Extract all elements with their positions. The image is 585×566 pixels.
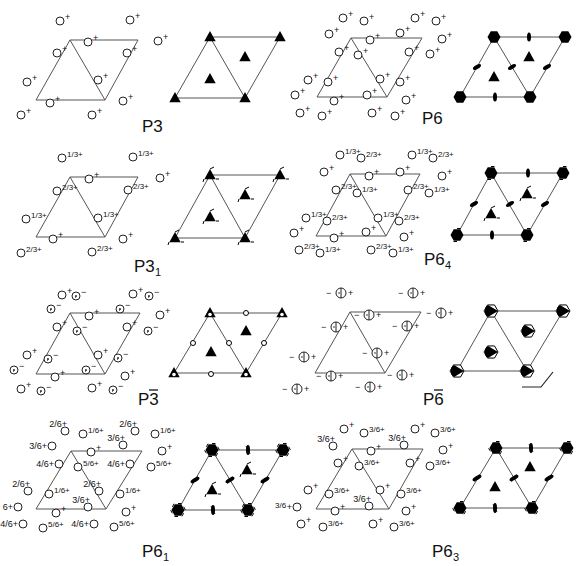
sixfold-screw-axis-icon [485,167,498,178]
equivalent-position-marker: −+ [387,370,414,380]
symbol-hexagon-icon [488,31,501,42]
equivalent-position-marker: 3/6+ [317,434,337,450]
position-height-label: 3/6+ [440,425,456,434]
position-circle-icon [85,312,93,320]
position-height-label: + [26,380,31,390]
equivalent-position-marker: + [23,73,37,86]
space-group-symbol: P6 [432,542,453,561]
position-height-label: − [46,382,51,392]
equivalent-position-marker: + [334,454,348,467]
position-height-label: 3/6+ [317,434,335,444]
equivalent-position-marker: 3/6+ [360,425,385,437]
position-height-label: + [306,515,311,525]
comma-dot-icon [328,375,330,377]
equivalent-position-marker: + [23,346,37,359]
twofold-axis-icon [490,231,494,240]
position-height-label: 3/6+ [72,495,90,505]
equivalent-position-marker: + [391,107,405,120]
position-circle-icon [123,49,131,57]
symbol-lens-icon [526,169,530,178]
equivalent-position-marker: − [82,361,96,374]
equivalent-position-marker: −+ [289,352,316,362]
position-height-label: + [405,163,410,173]
position-height-label: − [289,352,294,362]
equivalent-position-marker: + [376,481,390,494]
position-height-label: − [355,382,360,392]
equivalent-position-marker: + [439,441,453,454]
position-height-label: + [60,368,65,378]
position-height-label: + [97,106,102,116]
position-height-label: + [338,371,343,381]
equivalent-position-marker: + [432,12,446,25]
position-height-label: + [411,91,416,101]
equivalent-position-marker: − [73,322,87,335]
space-group-title: P61 [142,542,169,563]
position-height-label: 3/6+ [107,433,125,443]
symbol-screw31-icon [205,482,221,497]
position-height-label: 1/3+ [138,149,154,158]
position-height-label: − [326,288,331,298]
position-circle-icon [363,91,371,99]
position-height-label: 2/3+ [133,182,149,191]
twofold-axis-icon [542,63,552,71]
position-circle-icon [53,49,61,57]
position-circle-icon [124,186,132,194]
symbol-screw31-icon [203,209,219,224]
position-height-label: + [32,73,37,83]
space-group-symbol: P6 [422,109,443,128]
equivalent-position-marker: − [72,287,86,300]
position-height-label: + [132,318,137,328]
equivalent-position-marker: −+ [316,371,343,381]
position-height-label: − [19,361,24,371]
threefold-axis-icon [239,92,250,102]
position-circle-icon [94,76,102,84]
position-circle-icon [323,217,331,225]
position-circle-icon [431,429,439,437]
threefold-axis-icon [274,31,285,41]
symbol-triangle_open-icon [276,307,287,317]
position-height-label: + [363,46,368,56]
equivalent-position-marker: + [396,24,410,37]
position-height-label: + [414,43,419,53]
symbol-triangle_open-icon [240,367,251,377]
equivalent-position-marker: + [402,91,416,104]
twofold-axis-icon [527,33,531,42]
equivalent-position-marker: + [121,367,135,380]
position-height-label: + [448,308,453,318]
equivalent-position-marker: + [340,420,354,433]
equivalent-position-marker: −+ [362,348,389,358]
equivalent-position-marker: 6+ [3,502,22,512]
position-circle-icon [402,96,410,104]
position-circle-icon [426,50,434,58]
twofold-axis-icon [540,200,550,208]
equivalent-position-marker: 2/3+ [88,244,113,256]
position-circle-icon [318,112,326,120]
position-circle-icon [408,151,416,159]
position-height-label: + [32,346,37,356]
position-circle-icon [425,189,433,197]
equivalent-position-marker: −+ [392,321,419,331]
equivalent-position-marker: + [51,368,65,381]
position-circle-icon [88,248,96,256]
comma-dot-icon [301,356,303,358]
symbol-hex_tri-icon [484,305,498,317]
equivalent-position-marker: −+ [355,382,382,392]
equivalent-position-marker: + [367,442,381,455]
equivalent-position-marker: + [156,169,170,182]
equivalent-position-marker: + [426,45,440,58]
equivalent-position-marker: + [324,73,338,86]
position-height-label: 4/6+ [0,519,18,529]
symbol-screw63-icon [489,442,503,455]
symbol-hex_tri-icon [450,365,464,377]
equivalent-position-marker: 4/6+ [0,519,27,529]
position-circle-icon [376,75,384,83]
equivalent-position-marker: + [405,43,419,56]
position-height-label: − [56,300,61,310]
position-height-label: + [348,288,353,298]
position-height-label: + [447,167,452,177]
symbol-hex_tri-icon [484,346,498,358]
symbol-lens21-icon [544,474,555,482]
equivalent-position-marker: − [116,300,130,313]
position-circle-icon [402,507,410,515]
position-height-label: 1/3+ [398,245,414,254]
